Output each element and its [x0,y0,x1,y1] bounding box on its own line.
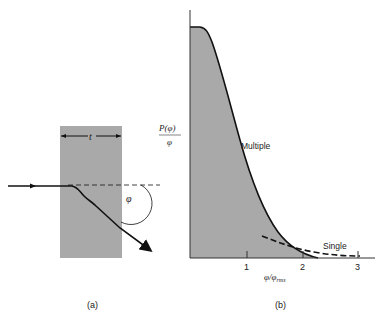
caption-b: (b) [275,300,286,310]
x-axis-label: φ/φrms [264,272,286,283]
panel-a: t φ (a) [8,126,160,310]
angle-arc [121,185,152,225]
scattering-slab [60,126,122,258]
angle-label: φ [126,193,132,204]
caption-a: (a) [87,300,98,310]
tick-label-2: 2 [300,262,305,272]
figure: t φ (a) 1 2 3 P(φ) φ φ/φrms [0,0,381,321]
panel-b: 1 2 3 P(φ) φ φ/φrms Multiple Single (b) [158,10,375,310]
thickness-label: t [89,131,92,142]
multiple-label: Multiple [241,141,271,151]
tick-label-1: 1 [244,262,249,272]
tick-label-3: 3 [355,262,360,272]
single-label: Single [323,241,347,251]
y-label-denominator: φ [167,137,172,147]
y-label-numerator: P(φ) [158,123,175,133]
